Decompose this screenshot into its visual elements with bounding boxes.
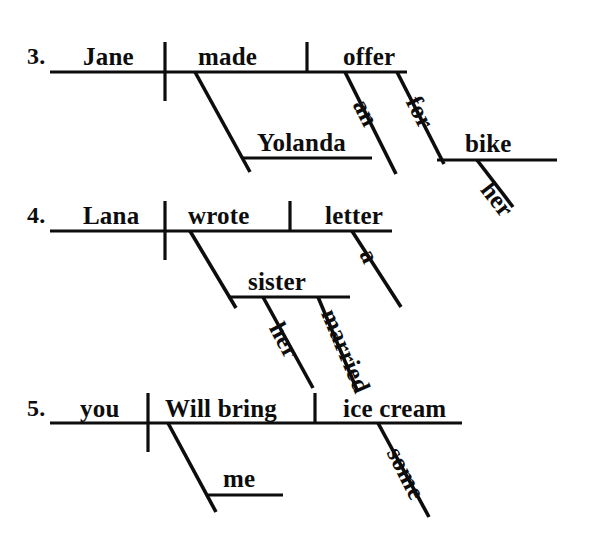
subject-label-4: Lana <box>83 203 139 228</box>
exercise-number-5: 5. <box>27 396 45 420</box>
indirect-object-label-3: Yolanda <box>257 130 346 155</box>
indirect-object-label-5: me <box>223 466 255 491</box>
sentence-diagram-canvas <box>0 0 590 534</box>
indirect-object-label-4: sister <box>248 269 306 294</box>
exercise-number-3: 3. <box>27 44 45 68</box>
subject-label-5: you <box>80 396 120 421</box>
verb-label-5: Will bring <box>165 396 277 421</box>
exercise-number-4: 4. <box>27 203 45 227</box>
indirect-object-slant-5 <box>168 423 216 512</box>
article-a-slant-4 <box>352 231 401 307</box>
indirect-object-slant-3 <box>195 72 250 172</box>
verb-label-4: wrote <box>188 203 250 228</box>
direct-object-label-5: ice cream <box>343 396 446 421</box>
direct-object-label-4: letter <box>325 203 383 228</box>
prep-object-label-bike-3: bike <box>465 131 512 156</box>
subject-label-3: Jane <box>83 44 134 69</box>
direct-object-label-3: offer <box>343 44 395 69</box>
verb-label-3: made <box>198 44 257 69</box>
